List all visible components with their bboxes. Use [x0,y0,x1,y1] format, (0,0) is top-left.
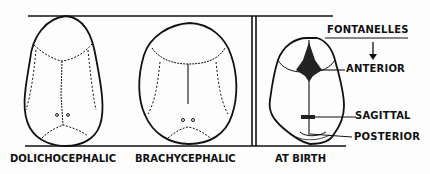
at-birth-skull [270,38,408,144]
skull-shapes-diagram: FONTANELLES ANTERIOR SAGITTAL POSTERIOR … [0,0,430,174]
arrow-down-icon [369,54,377,60]
label-posterior: POSTERIOR [354,131,420,142]
anterior-fontanelle-shape [296,42,322,82]
caption-at-birth: AT BIRTH [275,153,326,164]
fontanelles-title: FONTANELLES [327,24,409,35]
sagittal-fontanelle-mark [301,115,315,119]
label-anterior: ANTERIOR [346,63,405,74]
dolichocephalic-skull [25,16,103,146]
caption-brachycephalic: BRACHYCEPHALIC [135,153,236,164]
label-sagittal: SAGITTAL [355,110,411,121]
caption-dolichocephalic: DOLICHOCEPHALIC [10,153,116,164]
brachycephalic-skull [139,23,236,144]
